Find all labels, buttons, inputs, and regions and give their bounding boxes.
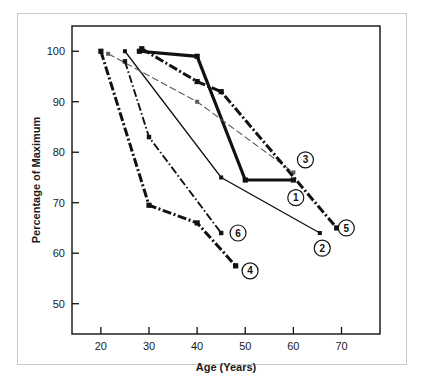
x-tick-label: 20: [95, 340, 107, 352]
data-point-marker: [123, 49, 127, 53]
x-tick-label: 40: [191, 340, 203, 352]
series-label-text-5: 5: [344, 223, 350, 234]
data-point-marker: [243, 177, 248, 182]
x-tick-label: 60: [287, 340, 299, 352]
x-tick-label: 50: [239, 340, 251, 352]
series-label-text-1: 1: [293, 192, 299, 203]
data-point-marker: [147, 135, 151, 139]
plot-area: 5060708090100 203040506070 123456 Percen…: [0, 0, 425, 387]
line-chart: 5060708090100 203040506070 123456 Percen…: [0, 0, 425, 387]
data-point-marker: [139, 46, 144, 51]
series-label-text-4: 4: [247, 265, 253, 276]
series-label-text-6: 6: [235, 228, 241, 239]
data-point-marker: [219, 175, 223, 179]
data-point-marker: [219, 231, 223, 235]
figure-caption: [12, 374, 416, 386]
data-point-marker: [195, 100, 199, 104]
x-axis-title: Age (Years): [196, 361, 257, 373]
data-point-marker: [233, 263, 238, 268]
data-point-marker: [219, 89, 224, 94]
data-point-marker: [195, 79, 200, 84]
y-tick-label: 50: [53, 298, 65, 310]
data-point-marker: [123, 59, 127, 63]
data-point-marker: [195, 220, 200, 225]
y-axis-title: Percentage of Maximum: [30, 117, 42, 244]
y-tick-label: 70: [53, 197, 65, 209]
data-point-marker: [318, 231, 322, 235]
series-label-text-3: 3: [303, 154, 309, 165]
data-point-marker: [106, 52, 110, 56]
y-tick-label: 60: [53, 247, 65, 259]
y-tick-label: 80: [53, 146, 65, 158]
x-tick-label: 70: [335, 340, 347, 352]
series-label-text-2: 2: [319, 243, 325, 254]
data-point-marker: [146, 203, 151, 208]
x-tick-label: 30: [143, 340, 155, 352]
data-point-marker: [98, 49, 103, 54]
y-tick-label: 100: [47, 45, 65, 57]
data-point-marker: [195, 54, 200, 59]
y-tick-label: 90: [53, 96, 65, 108]
figure-container: 5060708090100 203040506070 123456 Percen…: [0, 0, 425, 387]
